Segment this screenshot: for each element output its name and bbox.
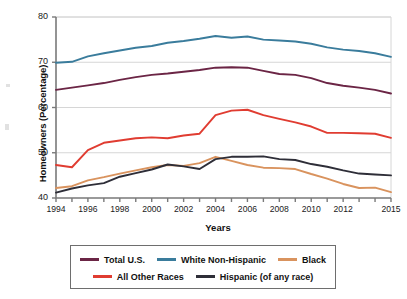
legend-color-swatch <box>93 275 112 278</box>
legend-label: Hispanic (of any race) <box>220 272 314 282</box>
legend-color-swatch <box>80 258 99 261</box>
legend-item[interactable]: All Other Races <box>93 272 184 282</box>
legend-label: Total U.S. <box>104 255 145 265</box>
legend-item[interactable]: Total U.S. <box>80 255 145 265</box>
series-line <box>56 156 391 192</box>
legend-label: White Non-Hispanic <box>181 255 266 265</box>
legend-row: All Other RacesHispanic (of any race) <box>75 268 331 285</box>
legend-color-swatch <box>157 258 176 261</box>
legend-item[interactable]: Hispanic (of any race) <box>196 272 314 282</box>
legend-label: Black <box>302 255 326 265</box>
series-line <box>56 36 391 63</box>
legend-row: Total U.S.White Non-HispanicBlack <box>75 251 331 268</box>
legend-item[interactable]: Black <box>278 255 326 265</box>
legend-item[interactable]: White Non-Hispanic <box>157 255 266 265</box>
legend-color-swatch <box>196 275 215 278</box>
homeownership-rate-chart: Homeowners (Percentage) Years 4050607080… <box>0 0 407 299</box>
legend-label: All Other Races <box>117 272 184 282</box>
chart-legend: Total U.S.White Non-HispanicBlackAll Oth… <box>70 245 336 289</box>
series-line <box>56 67 391 93</box>
legend-color-swatch <box>278 258 297 261</box>
series-line <box>56 157 391 192</box>
